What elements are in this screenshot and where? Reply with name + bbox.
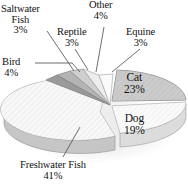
slice-label-reptile: Reptile 3% <box>57 27 87 48</box>
leader-line-equine <box>112 49 140 72</box>
leader-line-reptile <box>75 49 88 70</box>
slice-value-equine: 3% <box>126 38 155 49</box>
slice-label-cat-name: Cat <box>124 72 145 84</box>
slice-value-saltwater-fish: 3% <box>1 25 40 36</box>
slice-value-bird: 4% <box>2 68 20 79</box>
slice-label-cat: Cat 23% <box>124 72 145 95</box>
slice-value-reptile: 3% <box>57 38 87 49</box>
slice-label-bird: Bird 4% <box>2 57 20 78</box>
leader-line-other <box>96 27 104 72</box>
slice-label-dog: Dog 19% <box>124 113 145 136</box>
slice-value-cat: 23% <box>124 84 145 96</box>
slice-label-equine: Equine 3% <box>126 27 155 48</box>
slice-value-freshwater-fish: 41% <box>20 171 86 182</box>
slice-value-dog: 19% <box>124 125 145 137</box>
slice-label-dog-name: Dog <box>124 113 145 125</box>
pie-chart: Saltwater Fish 3% Reptile 3% Other 4% Eq… <box>0 0 188 192</box>
slice-value-other: 4% <box>89 11 112 22</box>
slice-label-freshwater-fish: Freshwater Fish 41% <box>20 160 86 181</box>
slice-label-saltwater-fish: Saltwater Fish 3% <box>1 4 40 36</box>
slice-label-other: Other 4% <box>89 0 112 21</box>
